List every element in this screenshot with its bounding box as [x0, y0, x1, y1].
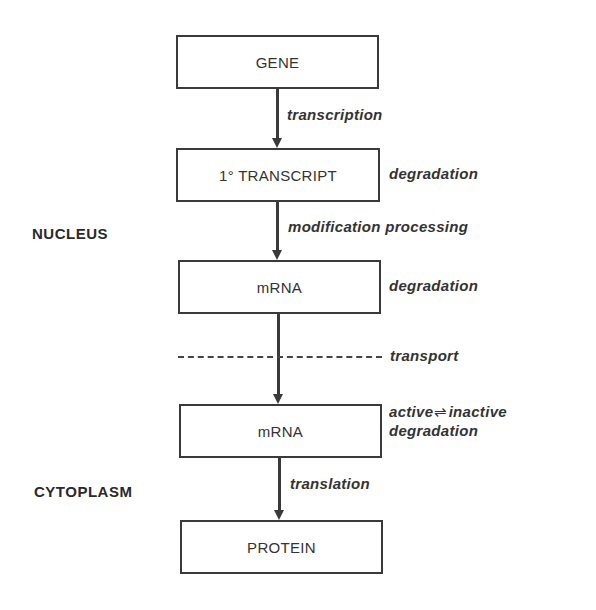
arrow-transcript-to-mrna [276, 202, 279, 251]
node-mrna-nuclear: mRNA [178, 260, 381, 314]
arrow-mrna-transport [277, 314, 280, 395]
arrowhead-icon [274, 510, 284, 520]
nuclear-membrane-divider [178, 356, 382, 358]
node-gene: GENE [176, 35, 379, 89]
arrowhead-icon [273, 394, 283, 404]
edge-label-translation: translation [290, 475, 370, 492]
arrowhead-icon [272, 138, 282, 148]
node-primary-transcript: 1° TRANSCRIPT [176, 148, 380, 202]
node-mrna-cytoplasmic-label: mRNA [258, 423, 303, 440]
node-protein: PROTEIN [180, 520, 383, 574]
node-gene-label: GENE [256, 54, 300, 71]
node-protein-label: PROTEIN [247, 539, 316, 556]
region-label-nucleus: NUCLEUS [32, 225, 108, 242]
note-inactive: inactive [449, 403, 507, 420]
note-transcript-degradation: degradation [389, 165, 478, 182]
equilibrium-arrows-icon: ⇌ [434, 403, 447, 420]
edge-label-transport: transport [390, 347, 459, 364]
edge-label-transcription: transcription [287, 106, 383, 123]
arrowhead-icon [272, 250, 282, 260]
arrow-mrna-to-protein [278, 458, 281, 511]
node-primary-transcript-label: 1° TRANSCRIPT [219, 167, 337, 184]
edge-label-modification-processing: modification processing [288, 218, 468, 235]
note-mrna-active-inactive: active⇌inactive [389, 403, 507, 421]
node-mrna-nuclear-label: mRNA [257, 279, 302, 296]
note-mrna-cyto-degradation: degradation [389, 422, 478, 439]
note-active: active [389, 403, 433, 420]
arrow-gene-to-transcript [276, 89, 279, 139]
region-label-cytoplasm: CYTOPLASM [34, 483, 132, 500]
node-mrna-cytoplasmic: mRNA [179, 404, 382, 458]
note-mrna-degradation: degradation [389, 277, 478, 294]
